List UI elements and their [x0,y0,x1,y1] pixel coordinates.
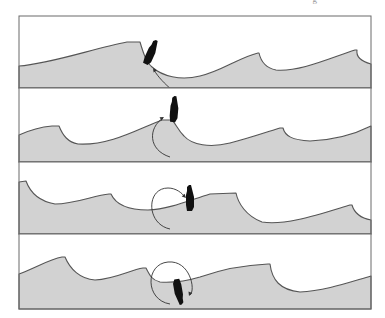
panel-1: Boat caught on steep face of breaking wa… [19,16,371,90]
pitchpole-diagram: Boat caught on steep face of breaking wa… [0,0,385,318]
panel-2: Bow digs in, boat rises vertical on cres… [19,88,371,162]
panel-4: Boat completes the pitchpole, upside dow… [19,234,371,309]
panel-3: Boat pitches over the crest, stern flung… [19,162,371,234]
